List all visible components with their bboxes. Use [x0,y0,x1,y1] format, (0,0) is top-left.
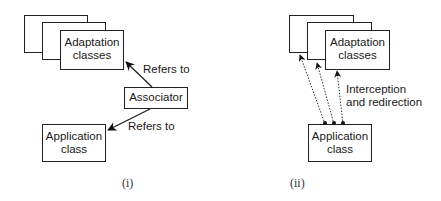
arrow-associator-to-application [108,109,150,130]
dotted-arrow-1 [300,55,325,124]
arrows-layer [0,0,441,201]
dotted-arrow-2 [317,63,334,124]
dotted-arrow-3 [337,71,343,124]
arrow-associator-to-adaptation [126,62,152,87]
